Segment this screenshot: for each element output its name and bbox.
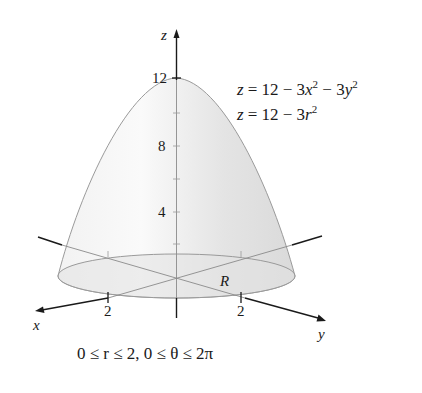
z-axis-label: z [160,27,167,43]
z-tick-label-12: 12 [152,70,167,86]
equation-polar: z= 12 − 3r2 [236,103,317,124]
x-axis-arrowhead [35,307,45,314]
x-axis-back-segment [38,237,62,245]
z-tick-label-8: 8 [158,138,166,154]
x-axis-label: x [32,317,40,333]
domain-caption: 0 ≤ r ≤ 2, 0 ≤ θ ≤ 2π [77,344,214,363]
region-label: R [219,273,229,289]
y-axis-label: y [316,326,325,342]
y-axis-back-segment [292,236,322,245]
y-tick-label-2: 2 [237,303,245,319]
x-tick-label-2: 2 [104,303,112,319]
z-axis-arrowhead [174,29,180,38]
z-tick-label-4: 4 [158,204,166,220]
x-axis [42,298,108,310]
paraboloid-diagram: z x y 12 8 4 2 2 R z= 12 − 3x2 − 3y2 z= … [0,0,422,393]
y-axis [245,298,318,318]
equation-cartesian: z= 12 − 3x2 − 3y2 [236,78,358,99]
y-axis-arrowhead [317,315,327,322]
